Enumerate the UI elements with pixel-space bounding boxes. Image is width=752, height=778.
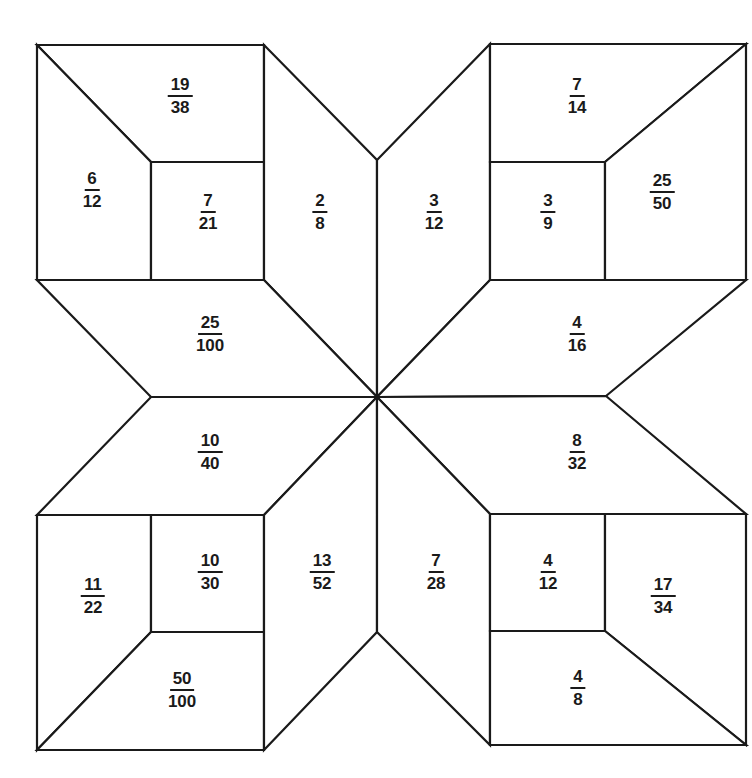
fraction-denominator: 30 — [198, 573, 223, 593]
fraction-label-bottom-left-arm: 13 52 — [310, 551, 335, 593]
fraction-label-bottom-right-arm: 7 28 — [424, 551, 449, 593]
fraction-denominator: 8 — [570, 689, 585, 709]
fraction-numerator: 19 — [168, 75, 193, 97]
fraction-label-top-right-arm: 3 12 — [422, 191, 447, 233]
fraction-label-tl-left: 6 12 — [80, 169, 105, 211]
fraction-denominator: 100 — [193, 335, 227, 355]
fraction-label-tr-square: 3 9 — [540, 191, 555, 233]
fraction-denominator: 32 — [565, 453, 590, 473]
fraction-denominator: 12 — [80, 191, 105, 211]
fraction-numerator: 3 — [426, 191, 441, 213]
fraction-denominator: 100 — [165, 691, 199, 711]
fraction-numerator: 7 — [428, 551, 443, 573]
fraction-label-left-lower-arm: 10 40 — [198, 431, 223, 473]
fraction-numerator: 13 — [310, 551, 335, 573]
fraction-label-tl-square: 7 21 — [196, 191, 221, 233]
fraction-label-tr-right: 25 50 — [650, 171, 675, 213]
fraction-numerator: 7 — [200, 191, 215, 213]
quilt-diagram — [0, 0, 752, 778]
fraction-denominator: 12 — [536, 573, 561, 593]
fraction-label-bl-left: 11 22 — [81, 575, 106, 617]
fraction-denominator: 16 — [565, 335, 590, 355]
fraction-label-tr-top: 7 14 — [565, 75, 590, 117]
fraction-denominator: 8 — [312, 213, 327, 233]
fraction-label-right-upper-arm: 4 16 — [565, 313, 590, 355]
fraction-numerator: 7 — [569, 75, 584, 97]
fraction-label-br-right: 17 34 — [651, 575, 676, 617]
fraction-numerator: 50 — [170, 669, 195, 691]
fraction-numerator: 17 — [651, 575, 676, 597]
fraction-denominator: 9 — [540, 213, 555, 233]
fraction-denominator: 14 — [565, 97, 590, 117]
fraction-label-bl-square: 10 30 — [198, 551, 223, 593]
fraction-label-br-square: 4 12 — [536, 551, 561, 593]
fraction-numerator: 4 — [569, 313, 584, 335]
fraction-numerator: 10 — [198, 551, 223, 573]
fraction-numerator: 3 — [540, 191, 555, 213]
fraction-denominator: 34 — [651, 597, 676, 617]
fraction-denominator: 52 — [310, 573, 335, 593]
fraction-numerator: 6 — [84, 169, 99, 191]
fraction-label-tl-top: 19 38 — [168, 75, 193, 117]
fraction-label-bl-bottom: 50 100 — [165, 669, 199, 711]
fraction-numerator: 25 — [650, 171, 675, 193]
fraction-denominator: 21 — [196, 213, 221, 233]
fraction-denominator: 28 — [424, 573, 449, 593]
fraction-numerator: 11 — [81, 575, 105, 597]
fraction-numerator: 2 — [312, 191, 327, 213]
fraction-denominator: 50 — [650, 193, 675, 213]
fraction-numerator: 10 — [198, 431, 223, 453]
fraction-label-right-lower-arm: 8 32 — [565, 431, 590, 473]
fraction-numerator: 4 — [540, 551, 555, 573]
fraction-denominator: 40 — [198, 453, 223, 473]
fraction-denominator: 38 — [168, 97, 193, 117]
fraction-label-br-bottom: 4 8 — [570, 667, 585, 709]
fraction-label-top-left-arm: 2 8 — [312, 191, 327, 233]
fraction-numerator: 8 — [569, 431, 584, 453]
fraction-label-left-upper-arm: 25 100 — [193, 313, 227, 355]
fraction-numerator: 25 — [198, 313, 223, 335]
fraction-denominator: 12 — [422, 213, 447, 233]
fraction-denominator: 22 — [81, 597, 106, 617]
fraction-numerator: 4 — [570, 667, 585, 689]
